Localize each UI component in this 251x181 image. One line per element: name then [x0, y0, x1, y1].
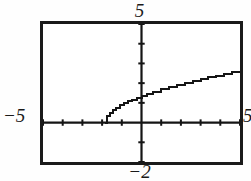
calculator-viewport-frame: [40, 21, 243, 165]
y-axis-max-label: 5: [0, 1, 251, 20]
x-axis-min-label: −5: [3, 106, 25, 125]
graphing-calculator-screenshot: 5 −2 −5 5: [0, 0, 251, 181]
y-axis-min-label: −2: [0, 162, 251, 181]
curve-series: [105, 71, 240, 123]
x-axis-max-label: 5: [243, 106, 251, 125]
graph-canvas: [43, 24, 240, 162]
plot-area: [43, 24, 240, 162]
